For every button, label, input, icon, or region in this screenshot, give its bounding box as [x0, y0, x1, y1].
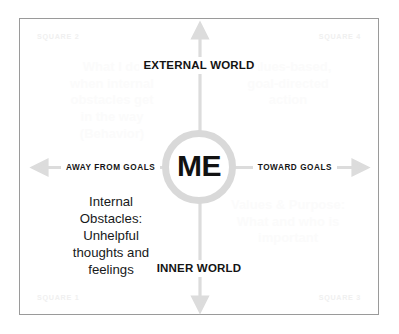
center-ring: ME — [162, 130, 236, 204]
arrowhead-up-icon — [193, 24, 207, 38]
arrowhead-right-icon — [353, 161, 367, 175]
corner-label-square-1: SQUARE 1 — [37, 293, 79, 302]
axis-label-toward-goals: TOWARD GOALS — [253, 159, 337, 174]
diagram-canvas: SQUARE 2 SQUARE 4 SQUARE 1 SQUARE 3 What — [0, 0, 399, 334]
center-label-me: ME — [177, 151, 221, 181]
axis-label-away-from-goals: AWAY FROM GOALS — [61, 159, 160, 174]
arrowhead-left-icon — [33, 161, 47, 175]
corner-label-square-3: SQUARE 3 — [319, 293, 361, 302]
axis-label-external-world: EXTERNAL WORLD — [139, 57, 258, 74]
diagram-frame: SQUARE 2 SQUARE 4 SQUARE 1 SQUARE 3 What — [19, 18, 379, 315]
corner-label-square-4: SQUARE 4 — [319, 32, 361, 41]
axis-label-inner-world: INNER WORLD — [153, 260, 246, 277]
corner-label-square-2: SQUARE 2 — [37, 32, 79, 41]
quadrant-text-bottom-right: Values & Purpose: What and who is import… — [226, 197, 350, 247]
arrowhead-down-icon — [193, 297, 207, 311]
